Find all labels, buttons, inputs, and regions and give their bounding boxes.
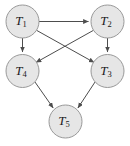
node-t5[interactable]: T5	[49, 105, 82, 138]
edge-t3-to-t5	[78, 82, 95, 108]
dag-diagram: T1T2T4T3T5	[0, 0, 130, 146]
edge-t4-to-t5	[35, 82, 53, 108]
node-t2[interactable]: T2	[91, 5, 124, 38]
node-t4[interactable]: T4	[6, 55, 39, 88]
node-t3[interactable]: T3	[91, 55, 124, 88]
graph-canvas: T1T2T4T3T5	[0, 0, 130, 146]
nodes-layer: T1T2T4T3T5	[6, 5, 124, 138]
node-t1[interactable]: T1	[6, 5, 39, 38]
